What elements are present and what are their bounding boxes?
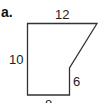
part-label: a.: [1, 4, 13, 20]
figure-diagram: a. 12 10 6 8: [0, 0, 104, 103]
bottom-dimension-label: 8: [45, 97, 52, 103]
pentagon-shape: [28, 24, 98, 96]
top-dimension-label: 12: [55, 7, 69, 22]
right-dimension-label: 6: [73, 74, 80, 89]
left-dimension-label: 10: [9, 52, 23, 67]
